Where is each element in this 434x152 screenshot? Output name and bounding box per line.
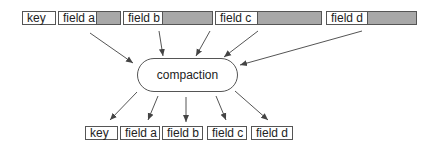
field-label: field d <box>252 127 288 139</box>
field-label: field b <box>124 12 160 24</box>
arrow <box>90 33 133 63</box>
arrow <box>196 31 210 56</box>
padding-region <box>257 12 321 24</box>
compaction-label: compaction <box>157 68 218 82</box>
arrow <box>235 91 268 120</box>
output-field-a-box: field a <box>120 126 160 140</box>
input-field-a-box: field a <box>58 11 121 25</box>
output-field-b-box: field b <box>162 126 203 140</box>
field-label: field d <box>327 12 363 24</box>
field-label: field c <box>208 127 243 139</box>
field-label: field b <box>163 127 199 139</box>
field-label: key <box>86 127 109 139</box>
arrow <box>224 31 258 57</box>
field-label: field a <box>59 12 95 24</box>
arrow <box>216 96 226 120</box>
output-key-box: key <box>85 126 118 140</box>
arrow <box>148 96 158 120</box>
input-field-b-box: field b <box>123 11 213 25</box>
compaction-process: compaction <box>137 58 238 92</box>
output-field-c-box: field c <box>207 126 247 140</box>
arrow <box>159 31 163 56</box>
field-label: field a <box>121 127 157 139</box>
padding-region <box>96 12 120 24</box>
padding-region <box>367 12 416 24</box>
field-label: field c <box>216 12 251 24</box>
input-key-box: key <box>22 11 56 25</box>
arrow <box>110 92 137 120</box>
arrow <box>240 31 362 65</box>
field-label: key <box>23 12 46 24</box>
padding-region <box>162 12 212 24</box>
output-field-d-box: field d <box>251 126 293 140</box>
input-field-d-box: field d <box>326 11 417 25</box>
input-field-c-box: field c <box>215 11 322 25</box>
